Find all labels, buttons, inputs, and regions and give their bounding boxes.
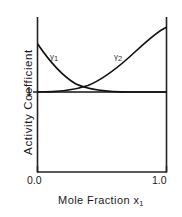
x-axis-label-text: Mole Fraction x bbox=[58, 194, 139, 206]
x-axis-label: Mole Fraction x1 bbox=[26, 194, 176, 208]
y-tick-label-unity: 1 bbox=[26, 85, 32, 97]
gamma-1-label: γ1 bbox=[50, 52, 58, 63]
activity-coefficient-chart: Activity Coefficient Mole Fraction x1 0.… bbox=[0, 0, 182, 217]
x-axis-label-subscript: 1 bbox=[139, 199, 144, 208]
x-tick-label-right: 1.0 bbox=[152, 174, 167, 186]
y-axis-label: Activity Coefficient bbox=[22, 27, 34, 177]
x-tick-label-left: 0.0 bbox=[27, 174, 42, 186]
gamma-2-subscript: 2 bbox=[118, 54, 122, 63]
gamma-1-subscript: 1 bbox=[54, 54, 58, 63]
gamma-2-label: γ2 bbox=[114, 52, 122, 63]
